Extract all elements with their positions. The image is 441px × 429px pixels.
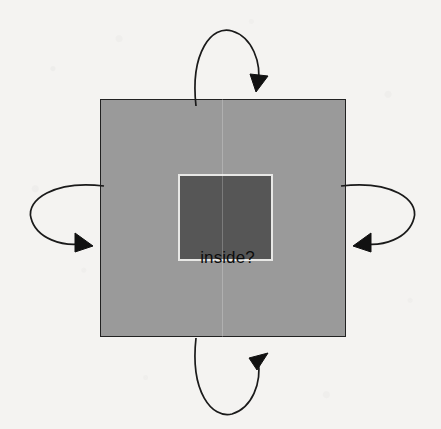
bottom-arrow-arc [195,338,259,415]
inner-square-region: inside? [178,174,273,261]
top-arrow-arc [195,30,259,106]
left-arrow-arc [30,185,104,244]
top-arrow [195,30,268,106]
left-arrow [30,185,104,252]
bottom-arrow [195,338,268,415]
inside-label: inside? [180,249,275,266]
left-arrow-head [75,233,93,252]
diagram-canvas: outside? inside? [0,0,441,429]
right-arrow-arc [341,185,415,244]
right-arrow [341,185,415,252]
right-arrow-head [353,233,371,252]
top-arrow-head [250,74,268,92]
outer-square-region: outside? inside? [100,99,346,337]
bottom-arrow-head [249,353,268,370]
